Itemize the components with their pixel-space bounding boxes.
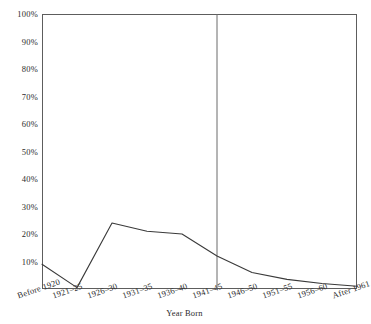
- y-axis-tick-label: 10%: [22, 257, 38, 267]
- x-axis-title: Year Born: [0, 308, 369, 318]
- y-axis-tick-label: 90%: [22, 37, 38, 47]
- plot-area: [42, 14, 357, 289]
- y-axis-tick-label: 100%: [17, 9, 38, 19]
- y-axis-tick-label: 80%: [22, 64, 38, 74]
- y-axis-tick-label: 60%: [22, 119, 38, 129]
- y-axis-tick-label: 70%: [22, 92, 38, 102]
- y-axis-tick-label: 30%: [22, 202, 38, 212]
- y-axis-tick-label: 50%: [22, 147, 38, 157]
- y-axis-tick-label: 20%: [22, 229, 38, 239]
- y-axis-tick-label: 40%: [22, 174, 38, 184]
